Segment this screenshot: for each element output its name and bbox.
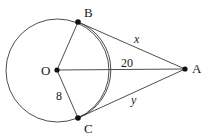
point-dot-b bbox=[75, 19, 81, 25]
point-label-a: A bbox=[192, 62, 201, 75]
point-label-c: C bbox=[84, 122, 93, 135]
segment-o-b bbox=[57, 22, 78, 70]
geometry-figure: O B C A 20 x y 8 bbox=[0, 0, 209, 137]
point-dot-c bbox=[75, 115, 81, 121]
length-label-ba: x bbox=[134, 33, 139, 45]
length-label-oc: 8 bbox=[56, 90, 62, 102]
length-label-oa: 20 bbox=[121, 57, 133, 69]
geometry-canvas bbox=[0, 0, 209, 137]
length-label-ca: y bbox=[131, 94, 136, 106]
point-dot-o bbox=[54, 67, 59, 72]
point-dot-a bbox=[182, 66, 187, 71]
point-label-b: B bbox=[84, 6, 93, 19]
point-label-o: O bbox=[41, 64, 50, 77]
